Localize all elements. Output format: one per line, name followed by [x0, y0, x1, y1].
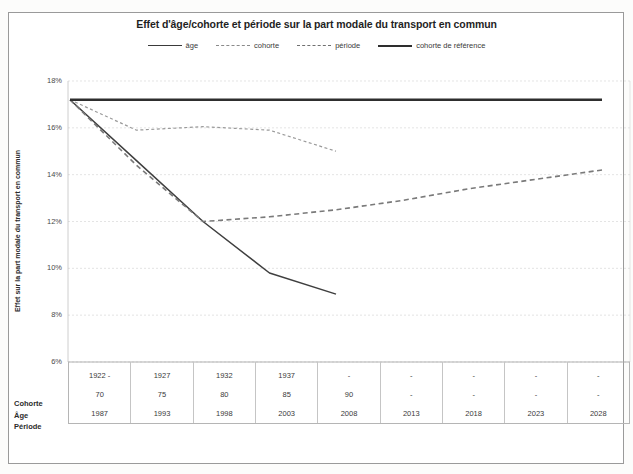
table-cell-age: 75	[131, 385, 192, 404]
y-tick-label: 8%	[28, 310, 62, 319]
table-cell-periode: 2003	[256, 404, 317, 423]
x-axis-row-labels: Cohorte Âge Période	[14, 398, 66, 433]
table-cell-age: -	[568, 385, 629, 404]
chart-title: Effet d'âge/cohorte et période sur la pa…	[0, 18, 633, 30]
y-tick-label: 18%	[28, 76, 62, 85]
table-column: --2023	[505, 362, 567, 423]
legend-item-age[interactable]: âge	[148, 42, 199, 50]
y-tick-label: 16%	[28, 123, 62, 132]
table-cell-periode: 1993	[131, 404, 192, 423]
table-cell-cohorte: 1927	[131, 366, 192, 385]
table-cell-cohorte: -	[318, 366, 379, 385]
table-cell-cohorte: -	[505, 366, 566, 385]
table-cell-periode: 2023	[505, 404, 566, 423]
legend-label-cohorte-reference: cohorte de référence	[416, 42, 485, 50]
table-cell-age: -	[443, 385, 504, 404]
table-cell-periode: 1998	[194, 404, 255, 423]
table-column: --2013	[381, 362, 443, 423]
table-column: 1922 -701987	[69, 362, 131, 423]
table-column: --2028	[568, 362, 629, 423]
table-cell-cohorte: 1932	[194, 366, 255, 385]
table-column: 1932801998	[194, 362, 256, 423]
x-axis-data-table: 1922 -7019871927751993193280199819378520…	[68, 362, 630, 424]
y-tick-label: 6%	[28, 357, 62, 366]
y-tick-label: 12%	[28, 217, 62, 226]
table-cell-age: 80	[194, 385, 255, 404]
line-thick-icon	[378, 42, 412, 49]
legend-item-cohorte-reference[interactable]: cohorte de référence	[378, 42, 485, 50]
legend-label-periode: période	[335, 42, 360, 50]
row-label-periode: Période	[14, 421, 66, 433]
row-label-cohorte: Cohorte	[14, 398, 66, 410]
table-cell-cohorte: 1937	[256, 366, 317, 385]
table-cell-age: -	[381, 385, 442, 404]
table-column: -902008	[318, 362, 380, 423]
legend-label-cohorte: cohorte	[254, 42, 279, 50]
table-cell-cohorte: -	[443, 366, 504, 385]
table-cell-periode: 2008	[318, 404, 379, 423]
table-cell-periode: 2018	[443, 404, 504, 423]
table-cell-age: 90	[318, 385, 379, 404]
line-dotted-icon	[216, 42, 250, 49]
line-dashed-icon	[297, 42, 331, 49]
table-column: 1927751993	[131, 362, 193, 423]
y-tick-label: 14%	[28, 170, 62, 179]
y-axis-title: Effet sur la part modale du transport en…	[14, 0, 21, 96]
table-column: --2018	[443, 362, 505, 423]
table-cell-cohorte: -	[568, 366, 629, 385]
table-column: 1937852003	[256, 362, 318, 423]
table-cell-age: -	[505, 385, 566, 404]
table-cell-periode: 2028	[568, 404, 629, 423]
y-axis-title-text: Effet sur la part modale du transport en…	[14, 96, 21, 366]
table-cell-periode: 1987	[69, 404, 130, 423]
line-solid-icon	[148, 42, 182, 49]
row-label-age: Âge	[14, 410, 66, 422]
legend-label-age: âge	[186, 42, 199, 50]
table-cell-age: 70	[69, 385, 130, 404]
legend-item-cohorte[interactable]: cohorte	[216, 42, 279, 50]
table-cell-age: 85	[256, 385, 317, 404]
legend-item-periode[interactable]: période	[297, 42, 360, 50]
chart-legend: âge cohorte période cohorte de référence	[0, 42, 633, 50]
table-cell-periode: 2013	[381, 404, 442, 423]
table-cell-cohorte: -	[381, 366, 442, 385]
table-cell-cohorte: 1922 -	[69, 366, 130, 385]
y-tick-label: 10%	[28, 263, 62, 272]
